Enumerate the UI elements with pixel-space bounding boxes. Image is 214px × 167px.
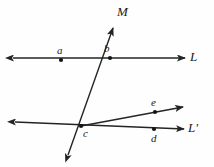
points-group bbox=[59, 56, 157, 131]
point-label-b: b bbox=[104, 43, 110, 54]
geometry-canvas bbox=[0, 0, 214, 167]
point-label-d: d bbox=[151, 133, 157, 144]
lines-group bbox=[13, 28, 185, 155]
point-a-dot bbox=[59, 58, 63, 62]
point-label-e: e bbox=[151, 97, 156, 108]
point-e-dot bbox=[153, 110, 157, 114]
point-d-dot bbox=[152, 127, 156, 131]
line-label-M: M bbox=[117, 5, 128, 18]
ray-c-to-e bbox=[81, 107, 183, 126]
geometry-diagram: a b c d e L L' M bbox=[0, 0, 214, 167]
line-label-L: L bbox=[190, 50, 197, 63]
point-label-a: a bbox=[57, 45, 63, 56]
point-b-dot bbox=[108, 56, 112, 60]
line-label-L-prime: L' bbox=[188, 121, 198, 134]
point-label-c: c bbox=[83, 128, 88, 139]
